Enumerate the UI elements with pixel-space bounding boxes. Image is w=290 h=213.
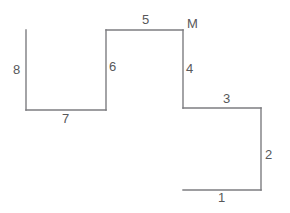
segment-4-label: 4	[186, 62, 193, 75]
segment-1-label: 1	[218, 191, 225, 204]
segment-8-label: 8	[13, 63, 20, 76]
segment-line-group	[26, 30, 261, 190]
segment-5-label: 5	[142, 13, 149, 26]
figure-canvas: 12345678M	[0, 0, 290, 213]
segment-7-label: 7	[62, 112, 69, 125]
segment-6-label: 6	[109, 60, 116, 73]
vertex-m-label: M	[187, 17, 198, 30]
segment-3-label: 3	[223, 92, 230, 105]
segment-2-label: 2	[265, 148, 272, 161]
staircase-polyline-svg	[0, 0, 290, 213]
